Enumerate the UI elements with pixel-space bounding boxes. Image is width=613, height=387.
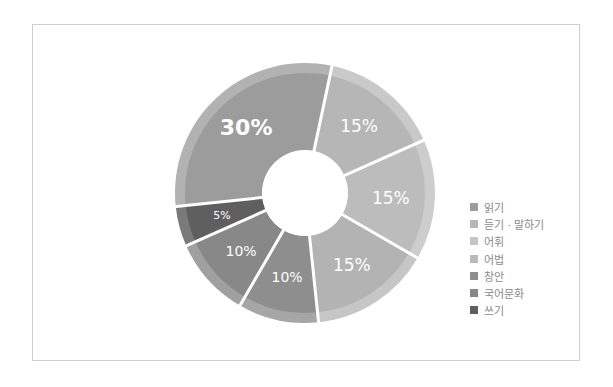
legend-item: 읽기	[470, 198, 545, 215]
donut-chart: 30%15%15%15%10%10%5%	[0, 0, 613, 387]
legend-swatch	[470, 237, 478, 245]
slice-label: 15%	[340, 116, 378, 136]
slice-label: 30%	[220, 115, 273, 140]
legend-label: 국어문화	[484, 285, 524, 301]
legend-label: 듣기 · 말하기	[484, 216, 545, 232]
legend-swatch	[470, 306, 478, 314]
legend-item: 듣기 · 말하기	[470, 215, 545, 232]
slice-label: 10%	[226, 243, 257, 259]
legend-swatch	[470, 272, 478, 280]
legend: 읽기 듣기 · 말하기 어휘 어법 창안 국어문화 쓰기	[470, 198, 545, 319]
legend-item: 쓰기	[470, 302, 545, 319]
slice-label: 15%	[372, 188, 410, 208]
legend-label: 창안	[484, 268, 504, 284]
legend-label: 읽기	[484, 199, 504, 215]
legend-swatch	[470, 289, 478, 297]
legend-label: 어법	[484, 251, 504, 267]
legend-item: 창안	[470, 267, 545, 284]
legend-label: 어휘	[484, 233, 504, 249]
slice-label: 10%	[272, 269, 303, 285]
slice-label: 15%	[333, 255, 371, 275]
legend-swatch	[470, 220, 478, 228]
legend-label: 쓰기	[484, 302, 504, 318]
legend-swatch	[470, 203, 478, 211]
slice-label: 5%	[213, 209, 230, 222]
legend-item: 어휘	[470, 233, 545, 250]
legend-swatch	[470, 255, 478, 263]
legend-item: 어법	[470, 250, 545, 267]
legend-item: 국어문화	[470, 284, 545, 301]
donut-hole	[262, 150, 348, 236]
